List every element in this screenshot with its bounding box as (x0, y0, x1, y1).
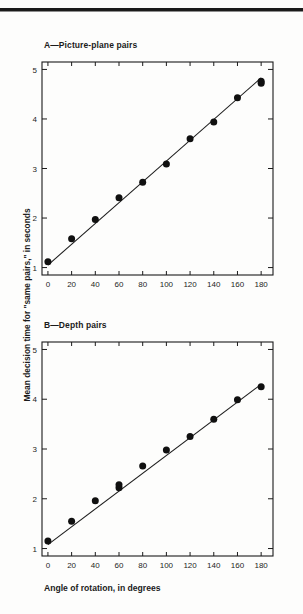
panel-b-chart: 02040608010012014016018012345 (0, 0, 303, 614)
x-tick-label: 180 (254, 561, 268, 570)
data-point (258, 383, 265, 390)
data-point (210, 416, 217, 423)
x-tick-label: 60 (115, 561, 124, 570)
regression-line (48, 384, 261, 544)
data-point (139, 462, 146, 469)
plot-frame (42, 342, 273, 556)
x-tick-label: 20 (67, 561, 76, 570)
y-tick-label: 2 (33, 495, 38, 504)
x-axis-label: Angle of rotation, in degrees (44, 583, 161, 593)
x-tick-label: 160 (231, 561, 245, 570)
data-point (116, 481, 123, 488)
data-point (163, 446, 170, 453)
x-tick-label: 120 (183, 561, 197, 570)
x-tick-label: 140 (207, 561, 221, 570)
data-point (68, 518, 75, 525)
x-tick-label: 100 (160, 561, 174, 570)
data-point (92, 497, 99, 504)
x-tick-label: 40 (91, 561, 100, 570)
y-axis-label: Mean decision time for "same pairs," in … (22, 190, 32, 420)
data-point (44, 538, 51, 545)
x-tick-label: 80 (138, 561, 147, 570)
figure-page: A—Picture-plane pairs B—Depth pairs 0204… (0, 0, 303, 614)
data-point (187, 433, 194, 440)
x-tick-label: 0 (46, 561, 51, 570)
y-tick-label: 5 (33, 346, 38, 355)
data-point (234, 396, 241, 403)
y-tick-label: 3 (33, 445, 38, 454)
y-tick-label: 1 (33, 545, 38, 554)
y-tick-label: 4 (33, 395, 38, 404)
